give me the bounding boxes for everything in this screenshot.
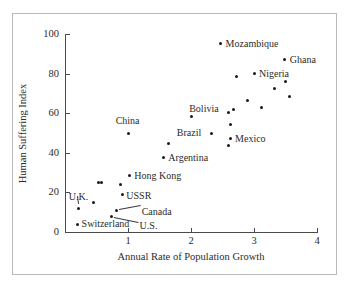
y-tick-label: 0 (35, 227, 59, 238)
data-point (260, 106, 263, 109)
point-label-hong-kong: Hong Kong (134, 171, 181, 181)
data-point (210, 132, 213, 135)
y-tick-mark (65, 153, 70, 154)
y-axis-title: Human Suffering Index (17, 49, 28, 219)
data-point (219, 42, 222, 45)
data-point (273, 87, 276, 90)
point-label-mozambique: Mozambique (226, 39, 279, 49)
y-tick-label: 20 (35, 187, 59, 198)
x-tick-label: 2 (181, 236, 201, 247)
y-tick-mark (65, 74, 70, 75)
y-tick-mark (65, 113, 70, 114)
plot-area: 020406080100 1234 MozambiqueGhanaNigeria… (0, 0, 351, 289)
y-tick-mark (65, 232, 70, 233)
data-point (246, 99, 249, 102)
leader-line (119, 205, 141, 210)
point-label-china: China (116, 116, 140, 126)
data-point (76, 223, 79, 226)
data-point (119, 183, 122, 186)
data-point (229, 137, 232, 140)
data-point (167, 142, 170, 145)
x-tick-mark (317, 228, 318, 233)
data-point (92, 201, 95, 204)
data-point (100, 181, 103, 184)
data-point (288, 95, 291, 98)
point-label-ghana: Ghana (290, 55, 316, 65)
data-point (253, 72, 256, 75)
data-point (121, 193, 124, 196)
data-point (77, 207, 80, 210)
data-point (235, 75, 238, 78)
point-label-ussr: USSR (126, 191, 151, 201)
y-tick-label: 100 (35, 29, 59, 40)
x-tick-mark (254, 228, 255, 233)
point-label-mexico: Mexico (235, 134, 266, 144)
y-tick-label: 60 (35, 108, 59, 119)
x-tick-label: 1 (118, 236, 138, 247)
data-point (227, 144, 230, 147)
data-point (284, 80, 287, 83)
point-label-canada: Canada (142, 207, 172, 217)
y-tick-mark (65, 34, 70, 35)
x-tick-label: 4 (307, 236, 327, 247)
point-label-u-s: U.S. (140, 221, 158, 231)
data-point (190, 115, 193, 118)
y-tick-label: 40 (35, 148, 59, 159)
point-label-bolivia: Bolivia (189, 104, 218, 114)
point-label-switzerland: Switzerland (82, 219, 130, 229)
point-label-nigeria: Nigeria (259, 69, 289, 79)
x-tick-label: 3 (244, 236, 264, 247)
data-point (229, 123, 232, 126)
x-tick-mark (191, 228, 192, 233)
data-point (127, 132, 130, 135)
data-point (115, 209, 118, 212)
scatter-plot-figure: 020406080100 1234 MozambiqueGhanaNigeria… (0, 0, 351, 289)
data-point (283, 58, 286, 61)
data-point (227, 111, 230, 114)
point-label-brazil: Brazil (177, 128, 201, 138)
y-tick-label: 80 (35, 69, 59, 80)
y-axis-line (65, 34, 66, 233)
x-axis-title: Annual Rate of Population Growth (65, 251, 317, 262)
point-label-argentina: Argentina (168, 153, 208, 163)
data-point (232, 108, 235, 111)
data-point (128, 174, 131, 177)
data-point (162, 156, 165, 159)
